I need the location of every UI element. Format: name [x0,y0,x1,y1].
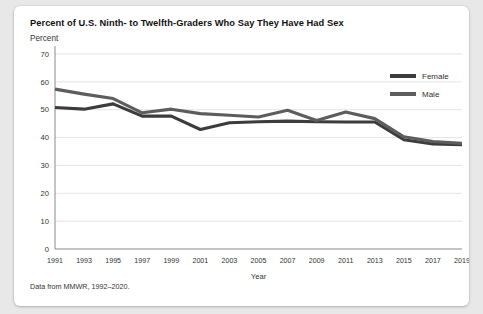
data-series-group [55,89,462,145]
x-axis-title: Year [251,272,267,281]
x-tick-label: 2001 [192,257,208,265]
x-axis-tick-labels: 1991199319951997199920012003200520072009… [47,257,469,265]
y-tick-label: 10 [41,217,49,226]
line-chart: 010203040506070 199119931995199719992001… [14,6,469,306]
y-tick-label: 30 [41,161,49,170]
x-tick-label: 1997 [134,257,150,265]
series-line-male [55,89,462,143]
x-tick-label: 1995 [105,257,121,265]
y-tick-label: 20 [41,189,49,198]
chart-card: Percent of U.S. Ninth- to Twelfth-Grader… [14,6,469,306]
x-tick-label: 1993 [76,257,92,265]
legend-label-male: Male [422,90,440,99]
x-tick-label: 2005 [251,257,267,265]
x-tick-label: 2019 [454,257,469,265]
x-tick-label: 2003 [222,257,238,265]
y-tick-label: 40 [41,133,49,142]
x-tick-label: 1999 [163,257,179,265]
x-tick-label: 2011 [338,257,353,265]
x-tick-label: 2009 [309,257,325,265]
y-tick-label: 50 [41,105,49,114]
chart-legend: FemaleMale [390,72,449,99]
x-tick-label: 1991 [47,257,63,265]
source-footnote: Data from MMWR, 1992–2020. [30,282,129,291]
y-tick-label: 70 [41,50,49,59]
legend-label-female: Female [422,72,449,81]
chart-plot-area: 010203040506070 199119931995199719992001… [14,6,469,306]
y-axis-tick-labels: 010203040506070 [41,50,49,254]
x-tick-label: 2013 [367,257,383,265]
y-tick-label: 60 [41,78,49,87]
y-tick-label: 0 [45,245,49,254]
x-tick-label: 2015 [396,257,412,265]
x-tick-label: 2007 [280,257,296,265]
x-tick-label: 2017 [425,257,441,265]
